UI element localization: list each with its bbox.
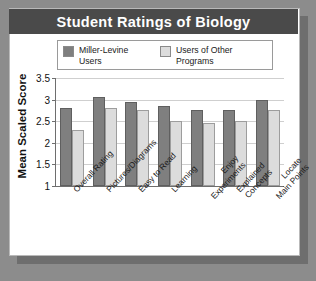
legend-entry-miller-levine: Miller-Levine Users <box>63 45 149 66</box>
legend-entry-other-programs: Users of Other Programs <box>160 45 246 66</box>
x-axis-labels: Overall RatingPictures/DiagramsEasy to R… <box>55 188 283 258</box>
chart-screenshot: Student Ratings of Biology Miller-Levine… <box>0 0 316 281</box>
y-axis-tick-label: 3 <box>44 94 50 105</box>
page-title: Student Ratings of Biology <box>57 14 251 30</box>
chart-legend: Miller-Levine Users Users of Other Progr… <box>57 40 273 70</box>
legend-label-miller-levine: Miller-Levine Users <box>79 45 149 66</box>
y-axis-title: Mean Scaled Score <box>16 73 28 179</box>
y-axis-tick-label: 1.5 <box>36 159 50 170</box>
y-axis-tick-label: 2 <box>44 137 50 148</box>
legend-swatch-icon-light <box>160 46 171 57</box>
bar-group <box>56 78 89 186</box>
y-axis-tick-label: 3.5 <box>36 73 50 84</box>
y-axis-tick-label: 2.5 <box>36 116 50 127</box>
chart-title-bar: Student Ratings of Biology <box>9 9 298 34</box>
bar <box>60 108 72 186</box>
y-axis-tick-mark <box>52 186 56 187</box>
legend-label-other-programs: Users of Other Programs <box>176 45 246 66</box>
legend-swatch-icon-dark <box>63 46 74 57</box>
y-axis-tick-label: 1 <box>44 181 50 192</box>
